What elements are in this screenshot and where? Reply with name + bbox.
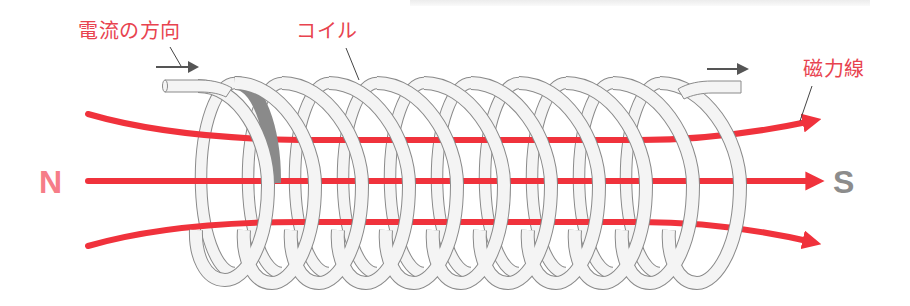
current-arrow-left (156, 61, 199, 73)
current-arrow-right (707, 63, 749, 75)
leader-field (800, 86, 812, 121)
leader-current (170, 47, 181, 66)
label-field-lines: 磁力線 (803, 59, 865, 79)
label-south-pole: S (833, 166, 854, 198)
label-current-direction: 電流の方向 (78, 21, 181, 41)
label-north-pole: N (39, 166, 62, 198)
leader-coil (346, 48, 359, 80)
solenoid-diagram (0, 0, 910, 306)
label-coil: コイル (296, 21, 358, 41)
